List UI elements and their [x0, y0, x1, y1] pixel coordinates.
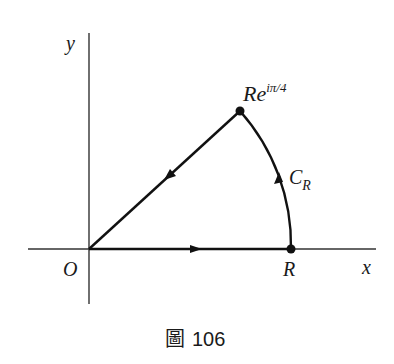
- figure-caption-char: 圖: [165, 328, 185, 350]
- figure-caption: 圖106: [165, 328, 225, 350]
- arc-label-subscript: R: [301, 178, 311, 193]
- origin-label: O: [63, 258, 77, 280]
- arc-c-r: [240, 111, 291, 249]
- arc-label: CR: [289, 166, 311, 193]
- top-point-label-base: Re: [242, 81, 266, 106]
- contour-diagram: y x O R Reiπ/4 CR 圖106: [0, 0, 394, 364]
- arrow-up-icon: [274, 172, 283, 184]
- point-top: [236, 107, 245, 116]
- segment-top-to-o: [89, 111, 240, 249]
- r-label: R: [282, 258, 295, 280]
- point-r: [287, 245, 296, 254]
- arc-label-base: C: [289, 166, 303, 188]
- x-axis-label: x: [361, 256, 371, 278]
- y-axis-label: y: [64, 32, 75, 55]
- top-point-label-exponent: iπ/4: [266, 80, 287, 95]
- arrow-right-icon: [190, 245, 202, 253]
- top-point-label: Reiπ/4: [242, 80, 287, 106]
- figure-caption-number: 106: [192, 328, 225, 350]
